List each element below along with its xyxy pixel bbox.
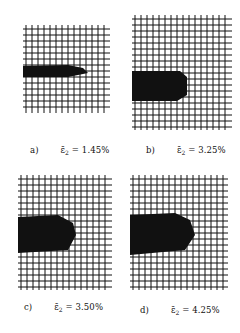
caption-b: b)ε̄2 = 3.25%: [146, 145, 226, 156]
strain-equation-a: ε̄2 = 1.45%: [61, 145, 110, 156]
panel-label-a: a): [30, 145, 39, 155]
strain-equation-d: ε̄2 = 4.25%: [171, 305, 220, 316]
caption-a: a)ε̄2 = 1.45%: [30, 145, 109, 156]
panel-label-c: c): [24, 302, 32, 312]
deformed-grid-image-c: [18, 175, 112, 290]
panel-c-deformed-grid: [18, 175, 112, 290]
strain-equation-c: ε̄2 = 3.50%: [54, 302, 103, 313]
panel-d-deformed-grid: [130, 175, 228, 290]
deformed-grid-image-b: [132, 15, 232, 130]
panel-label-d: d): [140, 305, 149, 315]
panel-label-b: b): [146, 145, 155, 155]
strain-equation-b: ε̄2 = 3.25%: [177, 145, 226, 156]
deformed-grid-image-a: [23, 25, 110, 113]
caption-d: d)ε̄2 = 4.25%: [140, 305, 220, 316]
caption-c: c)ε̄2 = 3.50%: [24, 302, 103, 313]
panel-b-deformed-grid: [132, 15, 232, 130]
deformed-grid-image-d: [130, 175, 228, 290]
panel-a-deformed-grid: [23, 25, 110, 113]
